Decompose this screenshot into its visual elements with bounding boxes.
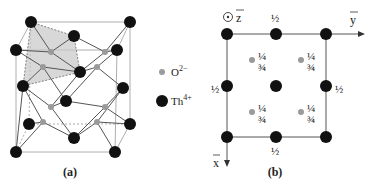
svg-text:¾: ¾ — [307, 113, 315, 125]
x-axis-label: x — [213, 156, 219, 170]
svg-text:½: ½ — [211, 83, 219, 95]
legend-thorium-marker — [156, 95, 168, 107]
z-axis-indicator: z — [224, 10, 245, 25]
legend-oxygen-charge: 2− — [179, 64, 188, 73]
z-axis-label: z — [236, 11, 241, 25]
svg-text:½: ½ — [335, 83, 343, 95]
legend-thorium-charge: 4+ — [183, 93, 192, 102]
legend-oxygen-label: O — [171, 66, 179, 78]
legend: O2− Th4+ — [156, 64, 192, 107]
legend-thorium-label: Th — [171, 95, 184, 107]
svg-text:¾: ¾ — [307, 61, 315, 73]
x-axis-label-group: x — [213, 155, 220, 170]
caption-a: (a) — [63, 165, 77, 179]
svg-text:½: ½ — [271, 145, 279, 157]
y-axis-label-group: y — [350, 12, 358, 27]
svg-text:¾: ¾ — [258, 113, 266, 125]
caption-b: (b) — [268, 165, 283, 179]
panel-b-grid — [224, 31, 365, 167]
y-axis-label: y — [350, 13, 356, 27]
legend-oxygen-marker — [159, 69, 165, 75]
panel-b-thorium — [221, 28, 332, 143]
svg-text:Th4+: Th4+ — [171, 93, 192, 107]
svg-text:¾: ¾ — [258, 61, 266, 73]
svg-text:O2−: O2− — [171, 64, 188, 78]
fluorite-structure-figure: O2− Th4+ (a) z y — [0, 0, 368, 188]
svg-text:½: ½ — [271, 12, 279, 24]
